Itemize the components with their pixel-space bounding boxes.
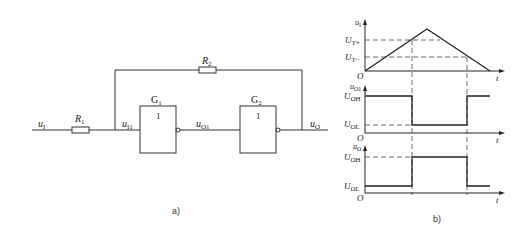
level-ut-plus: UT+ [345, 35, 360, 47]
level-uoh-3: UOH [344, 152, 361, 164]
origin-2: O [357, 133, 364, 143]
ylabel-uo1: uO1 [350, 82, 361, 92]
level-uol-3: UOL [344, 181, 360, 193]
level-uol-2: UOL [344, 119, 360, 131]
g1-function: 1 [156, 111, 161, 121]
g2-inverter-bubble [276, 128, 280, 132]
origin-1: O [357, 71, 364, 81]
waveform-plots: uI UT+ UT− O t uO1 UOH UOL O t [344, 18, 505, 224]
g1-label: G1 [151, 94, 162, 107]
g2-function: 1 [256, 111, 261, 121]
node-ui1-label: uI1 [122, 118, 133, 131]
uo1-square-wave [365, 96, 490, 125]
plot-uo: uO UOH UOL O t [344, 142, 505, 205]
ylabel-ui: uI [355, 18, 361, 28]
node-uo1-label: uO1 [196, 118, 210, 131]
plot-ui: uI UT+ UT− O t [345, 18, 505, 83]
caption-a: a) [172, 206, 180, 216]
triangle-input-wave [365, 29, 490, 71]
xlabel-t-3: t [496, 195, 499, 205]
resistor-r1 [72, 127, 89, 133]
origin-3: O [357, 193, 364, 203]
level-uoh-2: UOH [344, 91, 361, 103]
r2-label: R2 [201, 55, 212, 68]
uo-square-wave [365, 157, 490, 186]
level-ut-minus: UT− [345, 52, 360, 64]
g2-label: G2 [251, 94, 262, 107]
xlabel-t-2: t [496, 135, 499, 145]
circuit-labels: uI R1 R2 uI1 G1 1 uO1 G2 1 uO a) [38, 55, 320, 216]
circuit-diagram [32, 67, 328, 153]
g1-inverter-bubble [176, 128, 180, 132]
caption-b: b) [433, 214, 441, 224]
input-label: uI [38, 118, 46, 131]
schmitt-trigger-figure: uI R1 R2 uI1 G1 1 uO1 G2 1 uO a) uI UT+ … [0, 0, 529, 240]
r1-label: R1 [74, 113, 85, 126]
plot-uo1: uO1 UOH UOL O t [344, 82, 505, 145]
xlabel-t-1: t [496, 73, 499, 83]
output-label: uO [310, 118, 320, 131]
ylabel-uo: uO [353, 142, 362, 152]
